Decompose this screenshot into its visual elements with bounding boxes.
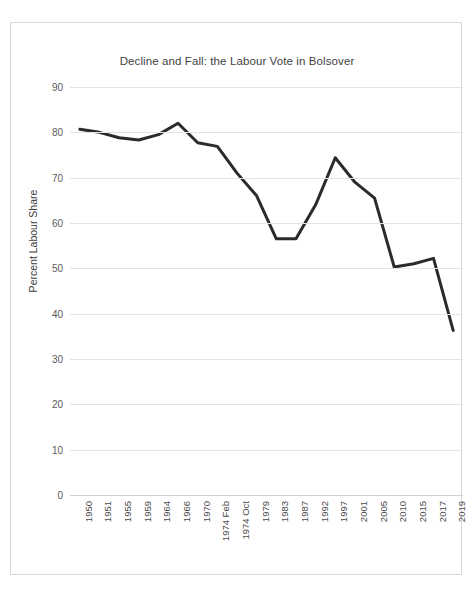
x-tick-label-1964: 1964: [162, 501, 172, 522]
x-tick-label-1966: 1966: [182, 501, 192, 522]
x-tick-label-2001: 2001: [359, 501, 369, 522]
x-tick-label-1992: 1992: [320, 501, 330, 522]
plot-area: [70, 87, 463, 495]
chart-title: Decline and Fall: the Labour Vote in Bol…: [11, 55, 463, 67]
x-tick-label-2005: 2005: [379, 501, 389, 522]
y-tick-label-50: 50: [11, 263, 63, 274]
chart-frame: Decline and Fall: the Labour Vote in Bol…: [10, 22, 462, 575]
x-tick-label-1997: 1997: [339, 501, 349, 522]
gridline-60: [70, 223, 463, 224]
y-tick-label-80: 80: [11, 127, 63, 138]
y-tick-label-70: 70: [11, 172, 63, 183]
gridline-80: [70, 132, 463, 133]
gridline-10: [70, 450, 463, 451]
x-tick-label-1951: 1951: [103, 501, 113, 522]
x-tick-label-2010: 2010: [398, 501, 408, 522]
y-tick-label-30: 30: [11, 354, 63, 365]
gridline-50: [70, 268, 463, 269]
x-tick-label-1970: 1970: [202, 501, 212, 522]
gridline-20: [70, 404, 463, 405]
line-series-bolsover-labour-share: [70, 87, 463, 495]
x-tick-label-2015: 2015: [418, 501, 428, 522]
x-tick-label-1974-feb: 1974 Feb: [221, 501, 231, 541]
y-tick-label-40: 40: [11, 308, 63, 319]
x-tick-label-1979: 1979: [261, 501, 271, 522]
y-tick-label-90: 90: [11, 82, 63, 93]
y-axis-tick-labels: 9080706050403020100: [11, 87, 63, 495]
gridline-30: [70, 359, 463, 360]
y-tick-label-0: 0: [11, 490, 63, 501]
gridline-40: [70, 314, 463, 315]
x-tick-label-1950: 1950: [84, 501, 94, 522]
x-tick-label-2017: 2017: [438, 501, 448, 522]
y-tick-label-60: 60: [11, 218, 63, 229]
y-tick-label-20: 20: [11, 399, 63, 410]
x-tick-label-1987: 1987: [300, 501, 310, 522]
x-axis-line: [70, 495, 463, 496]
y-tick-label-10: 10: [11, 444, 63, 455]
gridline-70: [70, 178, 463, 179]
x-tick-label-1983: 1983: [280, 501, 290, 522]
x-axis-tick-labels: 19501951195519591964196619701974 Feb1974…: [70, 501, 463, 571]
x-tick-label-1974-oct: 1974 Oct: [241, 501, 251, 540]
x-tick-label-1959: 1959: [143, 501, 153, 522]
x-tick-label-1955: 1955: [123, 501, 133, 522]
x-tick-label-2019: 2019: [457, 501, 467, 522]
gridline-90: [70, 87, 463, 88]
